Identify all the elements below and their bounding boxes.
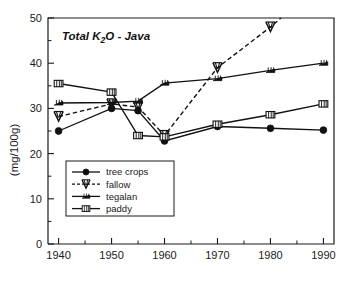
marker-filled-circle xyxy=(83,169,89,175)
x-tick-label: 1940 xyxy=(46,249,70,261)
title-part-main: Total K xyxy=(62,30,101,42)
y-tick-label: 30 xyxy=(30,102,42,114)
x-tick-label: 1980 xyxy=(258,249,282,261)
y-axis-title: (mg/100g) xyxy=(8,124,20,177)
title-part-tail: O - Java xyxy=(105,30,150,42)
y-tick-label: 10 xyxy=(30,193,42,205)
marker-filled-circle xyxy=(320,127,327,134)
k2o-java-line-chart: 194019501960197019801990 01020304050 (mg… xyxy=(0,0,359,284)
x-tick-label: 1990 xyxy=(311,249,335,261)
marker-filled-circle xyxy=(267,125,274,132)
legend-label: paddy xyxy=(106,203,132,214)
chart-legend: tree cropsfallowtegalanpaddy xyxy=(66,161,174,216)
x-tick-label: 1950 xyxy=(99,249,123,261)
legend-label: fallow xyxy=(106,179,130,190)
marker-box xyxy=(319,101,328,107)
y-tick-label: 50 xyxy=(30,12,42,24)
x-tick-label: 1970 xyxy=(205,249,229,261)
marker-box xyxy=(82,206,90,212)
marker-filled-circle xyxy=(55,128,62,135)
chart-figure: 194019501960197019801990 01020304050 (mg… xyxy=(0,0,359,284)
marker-box xyxy=(54,80,63,86)
chart-background xyxy=(0,0,359,284)
y-tick-label: 0 xyxy=(36,238,42,250)
marker-box xyxy=(266,112,275,118)
y-tick-label: 40 xyxy=(30,57,42,69)
marker-box xyxy=(160,134,169,140)
marker-box xyxy=(134,132,143,138)
y-tick-label: 20 xyxy=(30,148,42,160)
legend-label: tegalan xyxy=(106,191,137,202)
marker-box xyxy=(107,89,116,95)
x-tick-label: 1960 xyxy=(152,249,176,261)
marker-box xyxy=(213,121,222,127)
legend-label: tree crops xyxy=(106,166,148,177)
